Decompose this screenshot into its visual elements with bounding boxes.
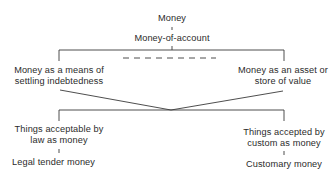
node-label-line: Things accepted by bbox=[229, 127, 336, 138]
node-label-line: Money as an asset or bbox=[228, 65, 336, 76]
node-legal-tender-money: Legal tender money bbox=[4, 157, 122, 168]
node-label-line: Money as a means of bbox=[4, 65, 114, 76]
cross-line-left bbox=[60, 90, 171, 110]
cross-line-right bbox=[171, 91, 283, 110]
node-customary-money: Customary money bbox=[229, 159, 336, 170]
connector-lines bbox=[0, 0, 336, 183]
root-node-money: Money bbox=[142, 13, 202, 24]
node-label-line: store of value bbox=[228, 76, 336, 87]
top-bracket bbox=[59, 50, 284, 61]
node-label-line: law as money bbox=[4, 135, 114, 146]
node-money-of-account: Money-of-account bbox=[122, 33, 222, 44]
node-label-line: settling indebtedness bbox=[4, 76, 114, 87]
node-label-line: Things acceptable by bbox=[4, 124, 114, 135]
node-label-line: custom as money bbox=[229, 138, 336, 149]
bottom-bracket bbox=[59, 110, 284, 121]
